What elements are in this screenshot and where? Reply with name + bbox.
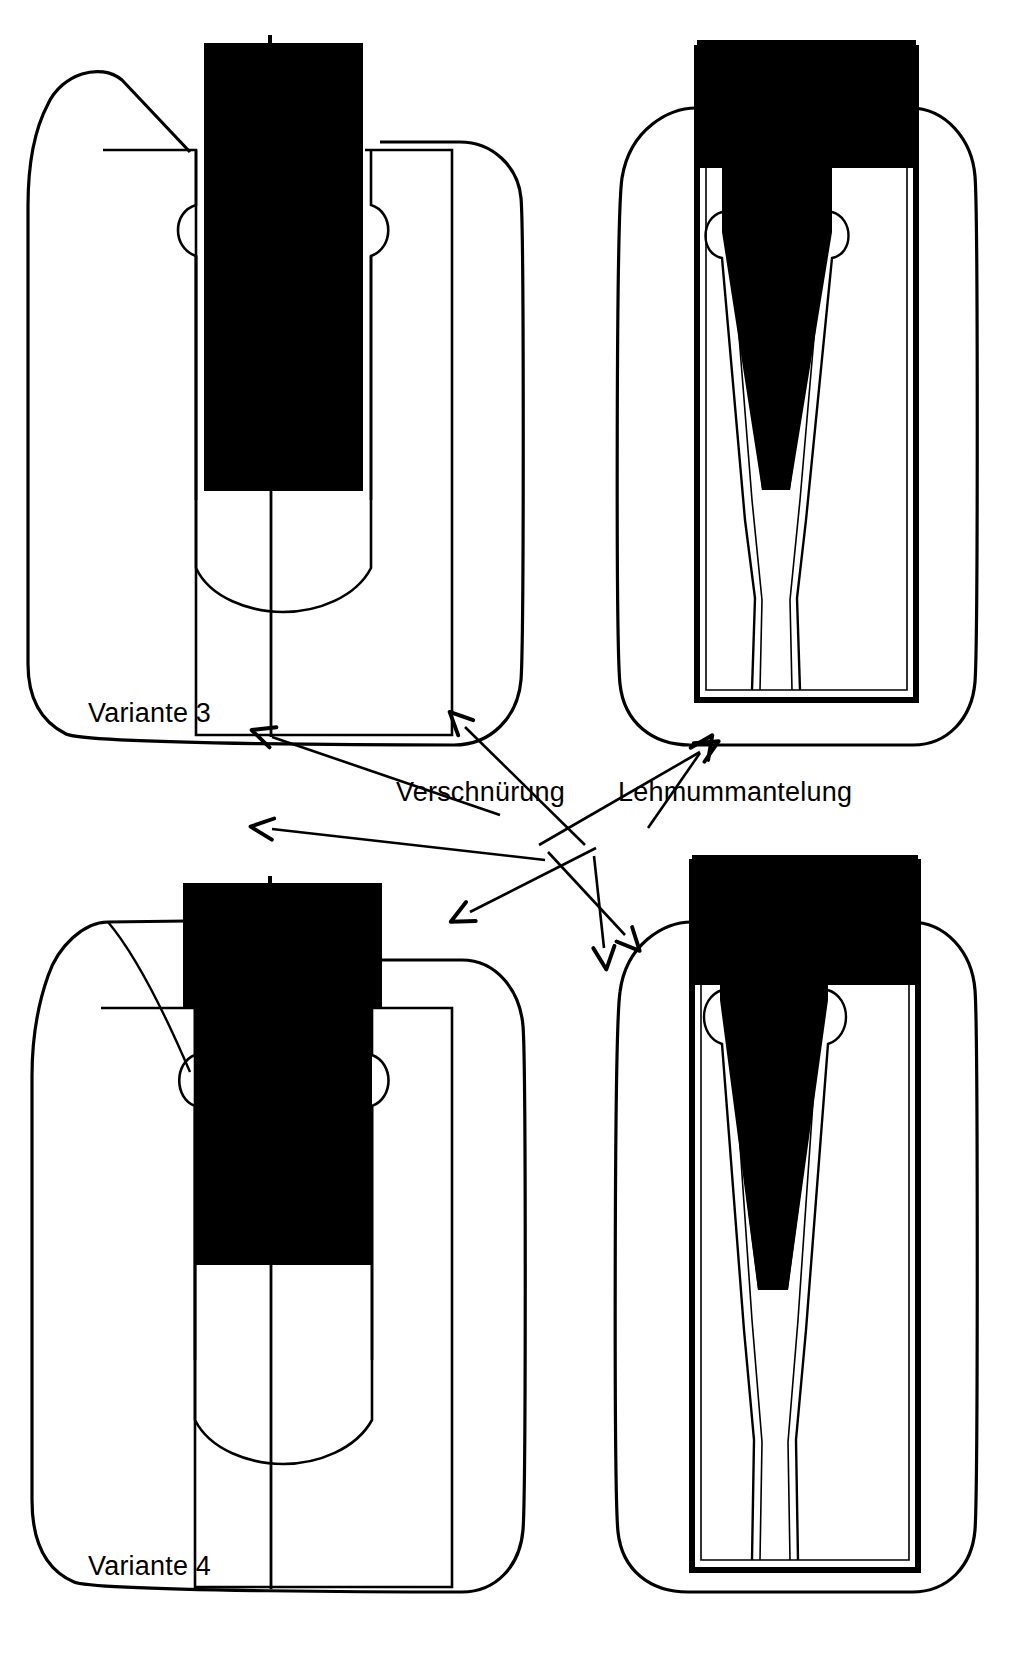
blade-tang-tip-v3-front: [268, 35, 272, 45]
figure-background: [0, 0, 1019, 1663]
annotation-label-lehmummantelung: Lehmummantelung: [618, 777, 852, 807]
annotation-label-verschnuerung: Verschnürung: [396, 777, 565, 807]
blade-head-v3-side: [697, 40, 916, 162]
figure-root: Variante 3: [0, 0, 1019, 1663]
schaeftungsvarianten-figure: Variante 3: [0, 0, 1019, 1663]
blade-head-v4-side: [692, 855, 918, 978]
blade-shaft-v3-front: [204, 43, 363, 491]
panel-caption-variante-4: Variante 4: [88, 1551, 211, 1581]
blade-tang-tip-v4-front: [268, 876, 272, 886]
blade-head-v4-front: [183, 883, 382, 1265]
panel-caption-variante-3: Variante 3: [88, 698, 211, 728]
